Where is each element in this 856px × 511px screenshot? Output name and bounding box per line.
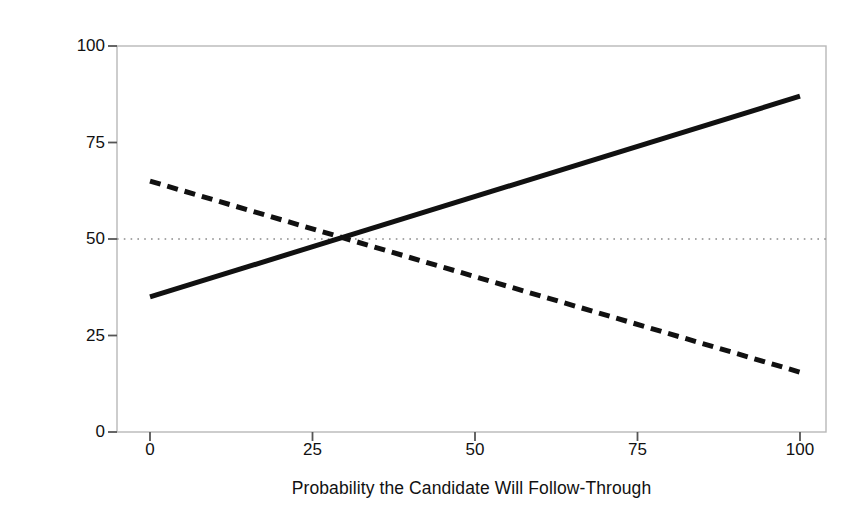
x-tick-label: 0 (120, 440, 180, 460)
x-axis-title-text: Probability the Candidate Will Follow-Th… (292, 478, 652, 498)
x-tick-label: 25 (283, 440, 343, 460)
plot-area (0, 0, 856, 511)
x-tick-label: 75 (608, 440, 668, 460)
y-tick-label: 50 (57, 229, 105, 249)
data-series (150, 96, 800, 372)
y-tick-label: 25 (57, 326, 105, 346)
x-axis-tick-labels: 0255075100 (0, 440, 856, 470)
x-tick-label: 50 (445, 440, 505, 460)
y-tick-label: 0 (57, 422, 105, 442)
axis-ticks (108, 46, 800, 441)
x-tick-label: 100 (770, 440, 830, 460)
series-falling-candidate (150, 181, 800, 372)
y-tick-label: 75 (57, 133, 105, 153)
y-axis-tick-labels: 0255075100 (50, 0, 105, 511)
x-axis-title: Probability the Candidate Will Follow-Th… (117, 478, 826, 499)
y-tick-label: 100 (57, 36, 105, 56)
chart-figure: Percent of the Population Preferring Can… (0, 0, 856, 511)
series-rising-candidate (150, 96, 800, 297)
